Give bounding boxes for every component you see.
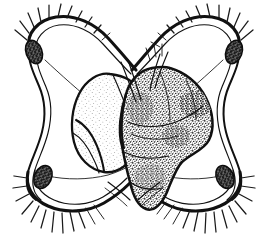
figure-root [0,0,268,245]
specimen-illustration [0,0,268,245]
